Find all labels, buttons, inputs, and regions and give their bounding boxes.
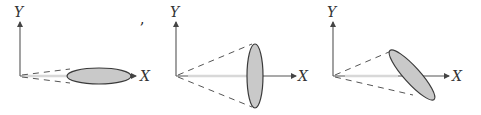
dashed-line-bottom <box>22 77 70 83</box>
x-axis-label: X <box>297 68 309 84</box>
y-axis-label: Y <box>14 4 25 20</box>
dashed-line-top <box>178 44 252 75</box>
panel-2: Y X <box>170 4 309 108</box>
ellipse-face-on <box>247 44 263 108</box>
panel-3: Y X <box>327 4 463 105</box>
y-axis-label: Y <box>327 4 338 20</box>
dashed-line-bottom <box>178 77 252 107</box>
dashed-line-top <box>22 69 70 75</box>
dashed-line-top <box>335 52 389 75</box>
figure-canvas: Y X , Y X Y X <box>0 0 481 115</box>
x-axis-label: X <box>451 68 463 84</box>
panel-1: Y X , <box>14 4 151 84</box>
x-axis-label: X <box>139 68 151 84</box>
y-axis-label: Y <box>170 4 181 20</box>
ellipse-edge-on <box>67 68 131 84</box>
stray-mark: , <box>140 11 144 27</box>
dashed-line-bottom <box>335 77 413 95</box>
